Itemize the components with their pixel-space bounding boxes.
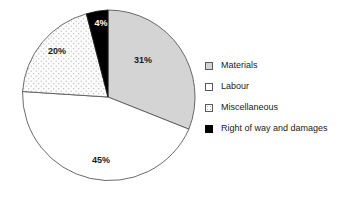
- legend-label-materials: Materials: [221, 61, 258, 70]
- legend-item-materials[interactable]: Materials: [205, 55, 354, 76]
- right-of-way-swatch-icon: [205, 125, 213, 133]
- labour-swatch-icon: [205, 83, 213, 91]
- materials-swatch-icon: [205, 62, 213, 70]
- pie-chart-figure: 31% 45% 20% 4% Materials Labour Miscella…: [0, 0, 354, 197]
- pie-chart-svg: 31% 45% 20% 4%: [0, 0, 210, 197]
- pie-value-label-right-of-way-and-damages: 4%: [94, 18, 107, 28]
- pie-value-label-labour: 45%: [92, 155, 110, 165]
- pie-value-label-miscellaneous: 20%: [48, 46, 66, 56]
- pie-chart-plot-area: 31% 45% 20% 4%: [0, 0, 210, 197]
- legend-label-labour: Labour: [221, 82, 249, 91]
- chart-legend: Materials Labour Miscellaneous Right of …: [205, 55, 354, 139]
- miscellaneous-swatch-icon: [205, 104, 213, 112]
- pie-value-label-materials: 31%: [134, 55, 152, 65]
- legend-item-miscellaneous[interactable]: Miscellaneous: [205, 97, 354, 118]
- legend-label-right-of-way-and-damages: Right of way and damages: [221, 124, 328, 133]
- legend-label-miscellaneous: Miscellaneous: [221, 103, 278, 112]
- legend-item-right-of-way-and-damages[interactable]: Right of way and damages: [205, 118, 354, 139]
- legend-item-labour[interactable]: Labour: [205, 76, 354, 97]
